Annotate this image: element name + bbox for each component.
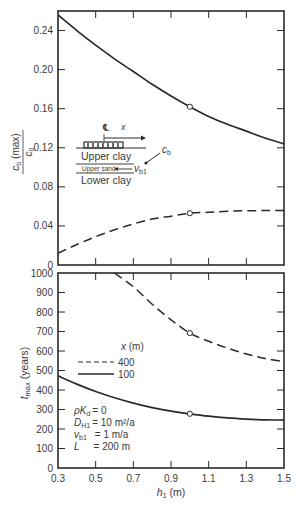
legend-label-100: 100 (118, 369, 135, 380)
annotation-dh1: DH1= 10 m²/a (74, 417, 135, 429)
y-tick-label: 0.04 (34, 220, 54, 231)
y-tick-label: 900 (36, 287, 53, 298)
y-tick-label: 700 (36, 326, 53, 337)
legend-label-400: 400 (118, 357, 135, 368)
y-tick-label: 0.20 (34, 64, 54, 75)
x-axis-label: h1 (m) (157, 486, 186, 500)
annotation-vb1: vb1= 1 m/a (74, 429, 129, 441)
y-tick-label: 600 (36, 346, 53, 357)
y-tick-label: 300 (36, 404, 53, 415)
y-tick-label: 0 (47, 463, 53, 474)
centerline-symbol: ℄ (102, 123, 109, 133)
upper-sand-label: Upper sand (82, 165, 116, 173)
source-hatching (88, 143, 118, 147)
bottom-panel: 0.30.50.70.91.11.31.50100200300400500600… (31, 268, 292, 485)
x-tick-label: 0.9 (164, 473, 178, 484)
y-tick-label: 0.16 (34, 103, 54, 114)
bottom-y-axis-label: tmax (years) (18, 347, 32, 400)
y-tick-label: 100 (36, 443, 53, 454)
inset-diagram: ℄ x Upper clay Upper sand Lower clay vb1… (76, 122, 171, 186)
series-x-100-m (58, 15, 284, 144)
data-marker (187, 104, 192, 109)
x-tick-label: 0.7 (126, 473, 140, 484)
y-tick-label: 800 (36, 307, 53, 318)
bottom-plot-frame (58, 273, 284, 468)
top-panel: 00.040.080.120.160.200.24 (34, 11, 284, 271)
y-tick-label: 0.12 (34, 142, 54, 153)
data-marker (187, 411, 192, 416)
lower-clay-label: Lower clay (81, 174, 132, 186)
legend: x (m) 400 100 (78, 341, 144, 380)
y-tick-label: 400 (36, 385, 53, 396)
svg-text:cb (max): cb (max) (10, 133, 22, 170)
svg-text:c0: c0 (23, 147, 35, 156)
y-tick-label: 0.24 (34, 25, 54, 36)
y-tick-label: 200 (36, 424, 53, 435)
y-tick-label: 500 (36, 365, 53, 376)
data-marker (187, 330, 192, 335)
x-tick-label: 1.1 (202, 473, 216, 484)
x-tick-label: 0.5 (89, 473, 103, 484)
x-arrow-head (141, 136, 146, 141)
annotation-rho-kd: ρKd= 0 (73, 405, 107, 417)
parameter-annotations: ρKd= 0 DH1= 10 m²/a vb1= 1 m/a L= 200 m (73, 405, 135, 452)
x-tick-label: 1.3 (239, 473, 253, 484)
vb1-label: vb1 (134, 163, 147, 175)
top-y-axis-label: cb (max) c0 (10, 130, 35, 174)
legend-title: x (m) (120, 341, 144, 352)
series-x-400-m (58, 210, 284, 253)
x-tick-label: 0.3 (51, 473, 65, 484)
x-tick-label: 1.5 (277, 473, 291, 484)
inset-x-label: x (120, 122, 126, 132)
cb-label: cb (162, 144, 171, 156)
annotation-l: L= 200 m (74, 441, 130, 452)
y-tick-label: 1000 (31, 268, 54, 279)
top-plot-frame (58, 11, 284, 265)
svg-text:tmax (years): tmax (years) (18, 347, 32, 400)
data-marker (187, 211, 192, 216)
upper-clay-label: Upper clay (81, 150, 132, 162)
figure: 00.040.080.120.160.200.24 0.30.50.70.91.… (0, 0, 303, 507)
y-tick-label: 0.08 (34, 181, 54, 192)
